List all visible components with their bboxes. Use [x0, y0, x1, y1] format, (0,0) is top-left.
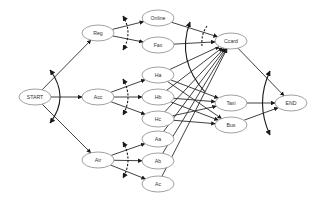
edge-air-to-aa — [111, 144, 145, 156]
node-online: Online — [142, 10, 174, 26]
workflow-diagram: STARTRegAccAirOnlineFaxHaHbHcAaAbAcCcard… — [0, 0, 325, 203]
start-and-split-arc — [50, 70, 60, 123]
edge-start-to-reg — [42, 40, 91, 90]
node-end: END — [275, 95, 307, 111]
node-ac: Ac — [142, 176, 174, 192]
node-taxi: Taxi — [215, 95, 247, 111]
edge-reg-to-fax — [113, 36, 143, 42]
node-label: Air — [95, 157, 102, 163]
node-acc: Acc — [82, 89, 114, 105]
edge-acc-to-hc — [111, 102, 145, 115]
node-label: Reg — [93, 30, 103, 36]
node-aa: Aa — [142, 131, 174, 147]
node-fax: Fax — [142, 37, 174, 53]
node-label: Fax — [154, 42, 163, 48]
node-label: START — [27, 94, 44, 100]
node-label: Acc — [94, 94, 103, 100]
node-label: END — [286, 100, 297, 106]
node-label: Aa — [155, 136, 161, 142]
node-bus: Bus — [215, 117, 247, 133]
node-start: START — [19, 89, 51, 105]
node-ccard: Ccard — [215, 33, 247, 49]
node-label: Online — [151, 15, 166, 21]
edge-fax-to-ccard — [174, 42, 215, 44]
node-label: Taxi — [226, 100, 235, 106]
node-reg: Reg — [82, 25, 114, 41]
edge-hc-to-bus — [174, 120, 215, 123]
node-hb: Hb — [142, 89, 174, 105]
edge-ccard-to-end — [238, 48, 284, 96]
node-label: Ccard — [224, 38, 238, 44]
node-ha: Ha — [142, 67, 174, 83]
node-label: Hb — [155, 94, 162, 100]
node-label: Hc — [155, 116, 162, 122]
node-label: Ha — [155, 72, 162, 78]
reg-xor-split-arc — [123, 16, 128, 50]
node-hc: Hc — [142, 111, 174, 127]
edge-air-to-ac — [110, 165, 145, 179]
edge-online-to-ccard — [172, 22, 218, 36]
ccard-join-arc — [185, 22, 205, 92]
node-label: Bus — [227, 122, 236, 128]
edge-bus-to-end — [244, 108, 278, 121]
node-layer: STARTRegAccAirOnlineFaxHaHbHcAaAbAcCcard… — [19, 10, 307, 192]
edge-acc-to-ha — [111, 80, 145, 93]
edge-start-to-air — [42, 104, 91, 153]
node-label: Ac — [155, 181, 161, 187]
node-ab: Ab — [142, 153, 174, 169]
node-air: Air — [82, 152, 114, 168]
node-label: Ab — [155, 158, 161, 164]
